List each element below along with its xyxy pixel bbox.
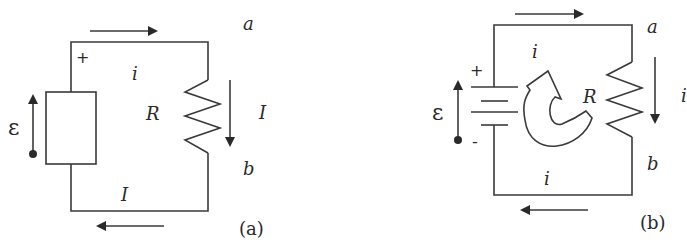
wire-a-bottom [71, 153, 208, 211]
plus-label-b: + [470, 61, 483, 80]
node-b-label-a: b [243, 158, 255, 179]
emf-dot-b-icon [454, 136, 462, 144]
circulation-arrow-icon [524, 71, 592, 146]
resistor-label-b: R [582, 86, 597, 107]
minus-label-b: - [472, 132, 478, 151]
emf-dot-a-icon [29, 150, 37, 158]
resistor-b-icon [607, 62, 642, 137]
caption-a: (a) [239, 218, 264, 239]
emf-label-a: ε [8, 115, 19, 140]
node-a-label-a: a [243, 13, 254, 34]
emf-label-b: ε [432, 100, 443, 125]
node-b-label-b: b [647, 153, 659, 174]
plus-label-a: + [76, 48, 89, 67]
circuit-b: ε + - i R i a b i (b) [432, 14, 687, 233]
loop-current-label-b-bottom: i [544, 168, 550, 189]
loop-current-label-b-top: i [532, 41, 538, 62]
circuit-a: ε + i R I a b I (a) [8, 13, 267, 239]
branch-current-label-b: i [681, 85, 687, 106]
wire-a-top [71, 42, 208, 92]
bottom-current-label-a: I [120, 184, 129, 205]
caption-b: (b) [640, 212, 666, 233]
battery-icon [471, 87, 518, 125]
loop-current-label-a: i [132, 63, 138, 84]
resistor-a-icon [185, 80, 220, 153]
emf-source-box [46, 92, 96, 164]
node-a-label-b: a [647, 16, 658, 37]
branch-current-label-a: I [258, 102, 267, 123]
wire-b-top [494, 25, 632, 87]
resistor-label-a: R [145, 103, 160, 124]
circuit-figures: ε + i R I a b I (a) ε [0, 0, 687, 247]
